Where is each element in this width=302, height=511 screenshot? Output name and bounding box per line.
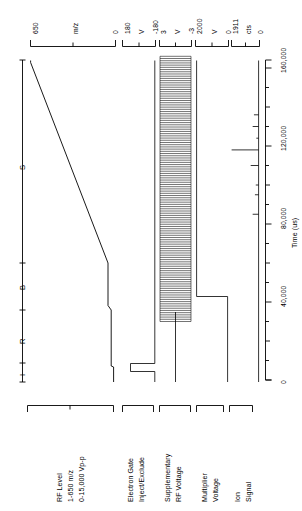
caption-ion-signal-line1: Ion	[234, 492, 241, 502]
caption-multiplier-line1: Multiplier	[201, 473, 208, 502]
caption-supp-rf-line1: Supplementary	[164, 454, 171, 502]
figure-canvas: 650 m/z 0 180 V -180 3 V -3 2000 V 0 191…	[0, 0, 302, 511]
caption-brackets	[0, 0, 302, 511]
caption-rf-level-line3: 0-15,000 Vp-p	[78, 456, 85, 502]
caption-rf-level-line1: RF Level	[56, 473, 63, 502]
caption-electron-gate-line1: Electron Gate	[127, 458, 134, 502]
caption-electron-gate-line2: Inject/Exclude	[138, 457, 145, 502]
caption-rf-level-line2: 1-650 m/z	[67, 470, 74, 502]
caption-supp-rf-line2: RF Voltage	[175, 466, 182, 502]
caption-ion-signal-line2: Signal	[245, 482, 252, 502]
caption-multiplier-line2: Voltage	[212, 478, 219, 502]
